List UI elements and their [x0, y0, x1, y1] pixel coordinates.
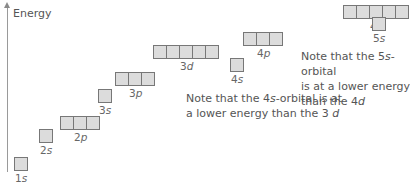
orbital-box — [98, 89, 112, 103]
orbital-label: 4p — [257, 47, 270, 59]
orbital-5s — [372, 17, 386, 31]
orbital-box — [73, 116, 87, 130]
orbital-box — [128, 72, 142, 86]
orbital-label: 3d — [180, 60, 193, 72]
orbital-box — [153, 45, 167, 59]
orbital-box — [14, 157, 28, 171]
orbital-box — [269, 32, 283, 46]
orbital-box — [39, 129, 53, 143]
orbital-box — [86, 116, 100, 130]
orbital-2p — [60, 116, 100, 130]
note-text: Note that the 4 — [186, 92, 270, 105]
orbital-2s — [39, 129, 53, 143]
note-5s: Note that the 5s-orbital is at a lower e… — [301, 49, 410, 109]
note-text: is at a lower energy — [301, 80, 410, 93]
orbital-label: 2s — [40, 144, 52, 156]
orbital-label: 3s — [99, 104, 111, 116]
orbital-label: 1s — [15, 172, 27, 184]
axis-label: Energy — [13, 7, 52, 20]
orbital-box — [60, 116, 74, 130]
orbital-3s — [98, 89, 112, 103]
orbital-box — [192, 45, 206, 59]
orbital-label: 3p — [129, 87, 142, 99]
orbital-box — [166, 45, 180, 59]
orbital-box — [343, 5, 357, 19]
orbital-3p — [115, 72, 155, 86]
orbital-label: 2p — [74, 131, 87, 143]
note-text: than the 4 — [301, 95, 358, 108]
orbital-3d — [153, 45, 219, 59]
orbital-box — [256, 32, 270, 46]
orbital-1s — [14, 157, 28, 171]
orbital-4p — [243, 32, 283, 46]
axis-arrow-icon — [4, 2, 10, 8]
orbital-label: 4s — [231, 73, 243, 85]
energy-axis — [7, 6, 8, 172]
orbital-box — [115, 72, 129, 86]
orbital-box — [356, 5, 370, 19]
orbital-box — [243, 32, 257, 46]
orbital-box — [141, 72, 155, 86]
orbital-box — [395, 5, 409, 19]
orbital-4s — [230, 58, 244, 72]
orbital-box — [179, 45, 193, 59]
note-text: d — [358, 95, 365, 108]
orbital-box — [230, 58, 244, 72]
orbital-label: 5s — [373, 32, 385, 44]
orbital-box — [372, 17, 386, 31]
note-text: Note that the 5 — [301, 50, 385, 63]
orbital-box — [205, 45, 219, 59]
